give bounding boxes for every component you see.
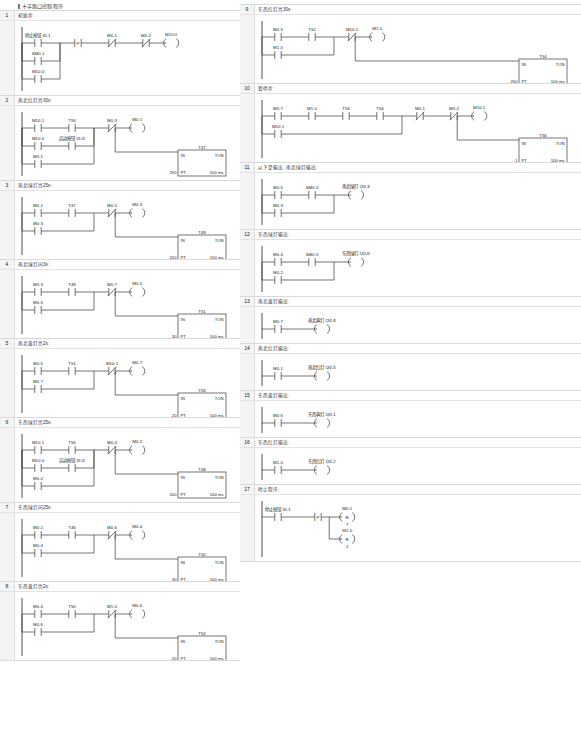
svg-text:M0.2: M0.2 — [273, 270, 283, 275]
svg-text:M0.1: M0.1 — [33, 203, 43, 208]
svg-text:M0.4: M0.4 — [33, 543, 43, 548]
rung-header: 2南北红灯亮30s: — [0, 96, 240, 106]
svg-text:20: 20 — [172, 413, 177, 418]
svg-text:停止按钮 I0.1: 停止按钮 I0.1 — [25, 32, 51, 39]
svg-text:M0.4: M0.4 — [273, 252, 283, 257]
rung-comment: 南北红灯亮30s: — [15, 96, 52, 105]
svg-text:启动按钮 I0.0: 启动按钮 I0.0 — [59, 135, 85, 142]
ladder-network: M0.5SM0.5M0.3南北绿灯 Q0.3 — [240, 173, 581, 229]
svg-text:M0.7: M0.7 — [273, 319, 283, 324]
svg-text:100 ms: 100 ms — [210, 656, 224, 661]
rung-number: 2 — [0, 96, 15, 105]
rung-body: 停止按钮 I0.1PM0.1R7M1.0R2 — [240, 495, 581, 561]
svg-text:TON: TON — [556, 62, 565, 67]
ladder-network: M0.4SM0.5M0.2东西绿灯 Q0.0 — [240, 240, 581, 296]
rung-comment: 东西黄灯亮2s: — [15, 582, 49, 591]
rung-body: M0.3T49M0.5M0.7M0.5T51INTONPT100 ms30 — [0, 270, 240, 338]
svg-text:M0.2: M0.2 — [449, 106, 459, 111]
rung: 10暂停步:M0.7M1.0T53T54M10.1M0.1M0.2M10.1T5… — [240, 84, 581, 163]
rung-header: 5南北黄灯亮2s: — [0, 339, 240, 349]
svg-text:M0.7: M0.7 — [273, 106, 283, 111]
svg-text:T53: T53 — [342, 106, 350, 111]
rung-body: M0.5SM0.5M0.3南北绿灯 Q0.3 — [240, 173, 581, 229]
svg-text:100 ms: 100 ms — [210, 334, 224, 339]
svg-text:M0.2: M0.2 — [141, 33, 151, 38]
svg-text:M10.0: M10.0 — [32, 136, 45, 141]
ladder-network: M0.2T46M0.4M0.6M0.4T50INTONPT100 ms30 — [0, 513, 240, 581]
svg-text:100 ms: 100 ms — [551, 158, 565, 163]
svg-text:M0.4: M0.4 — [132, 524, 142, 529]
rung-header: 14南北红灯输出: — [240, 344, 581, 354]
svg-text:T56: T56 — [539, 133, 547, 138]
rung-body: M0.7南北黄灯 Q0.4 — [240, 307, 581, 343]
svg-text:M0.7: M0.7 — [132, 360, 142, 365]
svg-text:T49: T49 — [198, 230, 206, 235]
svg-text:M0.5: M0.5 — [33, 300, 43, 305]
rung-body: M0.1T47M0.3M0.5M0.3T49INTONPT100 ms200 — [0, 191, 240, 259]
svg-text:200: 200 — [170, 255, 178, 260]
rung: 13南北黄灯输出:M0.7南北黄灯 Q0.4 — [240, 297, 581, 344]
svg-text:IN: IN — [181, 639, 185, 644]
rung-body: M0.7M1.0T53T54M10.1M0.1M0.2M10.1T56INTON… — [240, 94, 581, 162]
ladder-network: M0.3T49M0.5M0.7M0.5T51INTONPT100 ms30 — [0, 270, 240, 338]
rung-comment: 东西红灯亮30s: — [255, 5, 292, 14]
rung-body: M0.5T52M1.0M10.1M1.0T54INTONPT100 ms250 — [240, 15, 581, 83]
left-column: 十字路口控制程序 1初始步:停止按钮 I0.1SM0.1M10.0PM0.1M0… — [0, 0, 240, 748]
svg-text:M0.5: M0.5 — [132, 281, 142, 286]
svg-text:20: 20 — [172, 656, 177, 661]
svg-text:TON: TON — [556, 141, 565, 146]
svg-text:M10.0: M10.0 — [32, 69, 45, 74]
svg-text:M0.6: M0.6 — [273, 413, 283, 418]
svg-text:IN: IN — [181, 475, 185, 480]
svg-text:M0.5: M0.5 — [33, 361, 43, 366]
ladder-network: M0.7南北黄灯 Q0.4 — [240, 307, 581, 343]
rung-body: M0.4T50M0.6M1.0M0.6T52INTONPT100 ms20 — [0, 592, 240, 660]
svg-text:IN: IN — [181, 396, 185, 401]
rung-body: M10.1T55M10.0启动按钮 I0.0M0.2M0.4M0.2T48INT… — [0, 428, 240, 502]
rung-body: M0.6东西黄灯 Q0.1 — [240, 401, 581, 437]
svg-text:PT: PT — [181, 255, 187, 260]
rung-header: 4南北绿灯闪3s: — [0, 260, 240, 270]
rung-header: 17停止程序: — [240, 485, 581, 495]
svg-text:M0.5: M0.5 — [273, 27, 283, 32]
svg-text:P: P — [77, 41, 80, 46]
svg-text:SM0.5: SM0.5 — [306, 252, 319, 257]
svg-text:M0.1: M0.1 — [273, 366, 283, 371]
svg-text:IN: IN — [181, 560, 185, 565]
svg-text:南北红灯 Q0.5: 南北红灯 Q0.5 — [308, 364, 336, 371]
rung-header: 3南北绿灯亮25s: — [0, 181, 240, 191]
svg-text:M10.0: M10.0 — [32, 458, 45, 463]
rung-number: 10 — [240, 84, 255, 93]
svg-text:M10.0: M10.0 — [165, 32, 178, 37]
rung-comment: 南北红灯输出: — [255, 344, 289, 353]
svg-text:TON: TON — [215, 560, 224, 565]
rung: 14南北红灯输出:M0.1南北红灯 Q0.5 — [240, 344, 581, 391]
svg-text:M1.0: M1.0 — [107, 604, 117, 609]
svg-text:T48: T48 — [198, 467, 206, 472]
svg-text:M1.0: M1.0 — [342, 528, 352, 533]
rung-header: 8东西黄灯亮2s: — [0, 582, 240, 592]
svg-text:IN: IN — [181, 317, 185, 322]
rung-header: 12东西绿灯输出: — [240, 230, 581, 240]
title-bar-icon — [18, 4, 20, 9]
svg-text:M0.4: M0.4 — [107, 440, 117, 445]
svg-text:M0.1: M0.1 — [132, 117, 142, 122]
svg-text:M0.3: M0.3 — [33, 221, 43, 226]
rung-comment: 初始步: — [15, 11, 34, 20]
ladder-network: M0.7M1.0T53T54M10.1M0.1M0.2M10.1T56INTON… — [240, 94, 581, 162]
rung-number: 5 — [0, 339, 15, 348]
rung-header: 1初始步: — [0, 11, 240, 21]
svg-text:T54: T54 — [376, 106, 384, 111]
svg-text:250: 250 — [511, 79, 519, 84]
svg-text:T49: T49 — [68, 282, 76, 287]
svg-text:100 ms: 100 ms — [210, 577, 224, 582]
rung-header: 15东西黄灯输出: — [240, 391, 581, 401]
svg-text:M10.1: M10.1 — [272, 124, 285, 129]
svg-text:PT: PT — [181, 492, 187, 497]
svg-text:PT: PT — [181, 334, 187, 339]
ladder-network: 停止按钮 I0.1PM0.1R7M1.0R2 — [240, 495, 581, 561]
ladder-network: M0.1T47M0.3M0.5M0.3T49INTONPT100 ms200 — [0, 191, 240, 259]
rung-body: M0.1南北红灯 Q0.5 — [240, 354, 581, 390]
ladder-network: M10.1T55M10.0启动按钮 I0.0M0.1M0.3M0.1T47INT… — [0, 106, 240, 180]
svg-text:T52: T52 — [198, 631, 206, 636]
